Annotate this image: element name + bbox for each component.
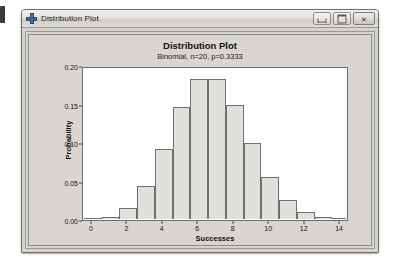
plot-area [82,67,348,221]
y-tick-label: 0.00 [64,218,78,225]
chart-title: Distribution Plot [29,40,371,51]
x-tick-mark [197,221,198,224]
bar [297,212,315,219]
y-tick-mark [79,221,82,222]
x-tick-label: 12 [300,225,308,232]
x-tick-label: 6 [195,225,199,232]
distribution-plot-window: Distribution Plot ✕ Distribution Plot Bi… [21,9,379,253]
bar [226,105,244,219]
bar [137,186,155,219]
y-tick-label: 0.15 [64,102,78,109]
minitab-plus-icon [26,13,37,24]
bar [119,208,137,219]
y-tick-label: 0.10 [64,141,78,148]
x-tick-mark [268,221,269,224]
plot-wrapper: 0.000.050.100.150.20 02468101214 [82,67,348,221]
bar [102,217,120,219]
x-axis-label: Successes [82,234,348,243]
window-titlebar[interactable]: Distribution Plot ✕ [22,10,378,28]
x-tick-label: 0 [89,225,93,232]
x-tick-label: 4 [160,225,164,232]
bar [84,218,102,219]
bar [155,149,173,219]
x-tick-mark [232,221,233,224]
y-tick-mark [79,67,82,68]
bar-series [84,69,346,219]
y-tick-label: 0.05 [64,179,78,186]
x-tick-label: 2 [124,225,128,232]
bar [173,107,191,219]
x-tick-label: 10 [264,225,272,232]
chart-subtitle: Binomial, n=20, p=0.3333 [29,52,371,61]
graph-panel: Distribution Plot Binomial, n=20, p=0.33… [28,34,372,246]
x-tick-label: 8 [231,225,235,232]
window-title: Distribution Plot [41,14,99,23]
window-controls: ✕ [313,12,375,25]
x-tick-mark [161,221,162,224]
y-tick-mark [79,105,82,106]
close-button[interactable]: ✕ [353,12,375,25]
x-tick-label: 14 [335,225,343,232]
bar [332,218,346,219]
x-tick-mark [90,221,91,224]
bar [244,143,262,219]
minimize-button[interactable] [313,12,331,25]
maximize-button[interactable] [333,12,351,25]
bar [190,79,208,219]
bar [279,200,297,219]
bar [261,177,279,219]
x-tick-mark [126,221,127,224]
y-tick-mark [79,144,82,145]
x-tick-mark [303,221,304,224]
y-tick-label: 0.20 [64,64,78,71]
edge-clipped-glyph [0,6,5,23]
window-client-area: Distribution Plot Binomial, n=20, p=0.33… [25,31,375,249]
bar [208,79,226,219]
bar [315,217,333,219]
x-tick-mark [339,221,340,224]
y-tick-mark [79,182,82,183]
